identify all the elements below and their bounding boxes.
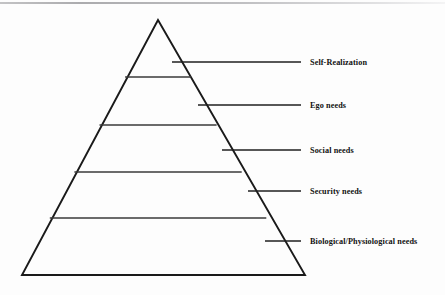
level-label-security-needs: Security needs [310,186,362,197]
pyramid-graphic [0,0,445,295]
pyramid-diagram-canvas: Self-Realization Ego needs Social needs … [0,0,445,295]
level-label-biological-physiological-needs: Biological/Physiological needs [310,236,442,247]
level-label-social-needs: Social needs [310,145,354,156]
level-label-self-realization: Self-Realization [310,57,367,68]
pyramid-outline [22,20,305,275]
level-label-ego-needs: Ego needs [310,100,346,111]
